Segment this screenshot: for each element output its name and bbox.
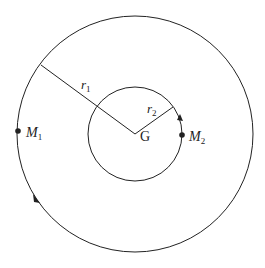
outer-arrow-icon: [33, 194, 40, 203]
m1-label: M1: [25, 125, 42, 142]
m2-label: M2: [188, 129, 205, 146]
mass-m2-dot: [179, 132, 185, 138]
mass-m1-dot: [15, 128, 21, 134]
binary-orbit-diagram: r1 r2 G M1 M2: [0, 0, 265, 268]
radius-r1-line: [41, 65, 135, 134]
center-g-label: G: [140, 129, 150, 144]
r2-label: r2: [147, 101, 157, 118]
r1-label: r1: [81, 77, 91, 94]
